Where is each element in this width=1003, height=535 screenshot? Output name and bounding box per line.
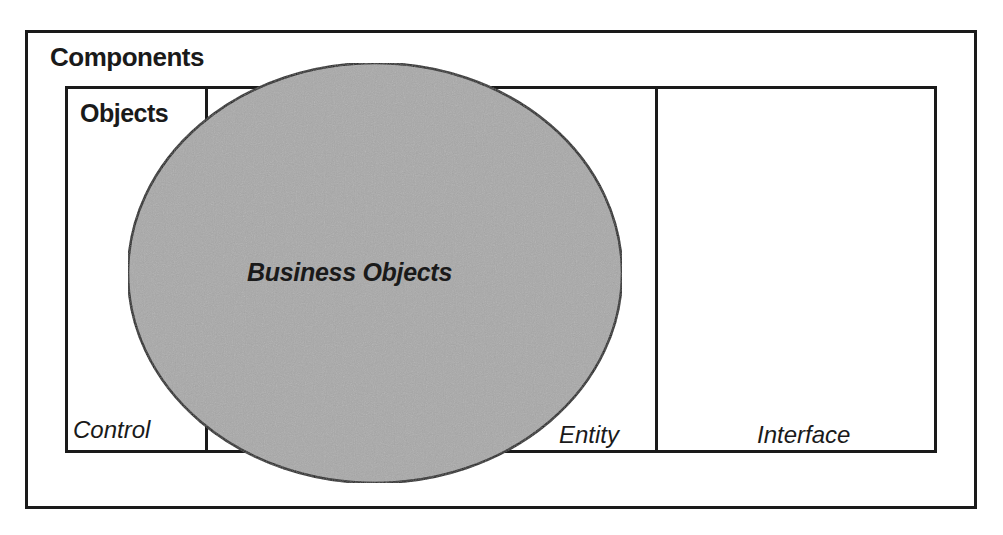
entity-section-label: Entity [559,421,619,449]
business-objects-label: Business Objects [247,258,452,287]
objects-label: Objects [80,99,168,128]
entity-interface-divider [655,86,658,450]
components-label: Components [50,42,204,73]
components-diagram: Components Objects Control Business Obje… [0,0,1003,535]
control-section-label: Control [73,416,150,444]
interface-section-label: Interface [757,421,850,449]
